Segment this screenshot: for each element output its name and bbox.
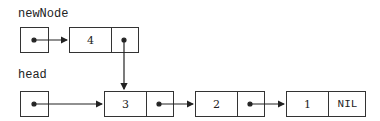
pointer-arrows [0, 0, 380, 121]
